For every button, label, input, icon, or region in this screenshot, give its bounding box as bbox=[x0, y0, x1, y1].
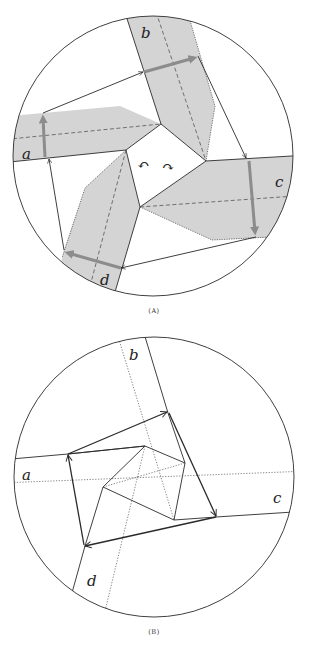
label-b-b: b bbox=[129, 346, 139, 364]
caption-a: (A) bbox=[148, 307, 159, 315]
arrow-d-to-a-b bbox=[68, 455, 84, 545]
label-c-b: c bbox=[273, 489, 282, 507]
arrow-b-to-c-b bbox=[169, 413, 216, 516]
label-a: a bbox=[22, 145, 31, 163]
strip-d-edge-b bbox=[60, 546, 85, 640]
label-b: b bbox=[141, 24, 151, 42]
caption-b: (B) bbox=[148, 628, 159, 636]
black-arrow-a-to-b bbox=[43, 72, 143, 113]
rotate-ccw-icon: ↶ bbox=[137, 156, 150, 174]
inner-edge-1 bbox=[68, 446, 185, 546]
inner-edge-2 bbox=[103, 446, 145, 487]
panel-a: ↶ ↷ a b c d (A) bbox=[0, 0, 309, 315]
panel-a-strips bbox=[0, 0, 309, 309]
arrow-a-to-b-b bbox=[68, 412, 167, 454]
strip-b-edge-b bbox=[140, 320, 168, 413]
label-d-b: d bbox=[87, 572, 97, 590]
black-arrow-d-to-a bbox=[49, 159, 64, 250]
label-d: d bbox=[100, 271, 110, 289]
gray-arrow-a bbox=[43, 118, 45, 157]
arrow-c-to-d-b bbox=[85, 517, 216, 546]
strip-d-shade bbox=[50, 150, 140, 309]
label-a-b: a bbox=[22, 466, 31, 484]
label-c: c bbox=[275, 173, 284, 191]
panel-b: a b c d (B) bbox=[0, 320, 309, 640]
black-arrow-c-to-d bbox=[121, 237, 256, 268]
strip-b-centerline-b bbox=[113, 320, 174, 520]
panel-b-lines bbox=[0, 320, 309, 640]
strip-a-centerline-b bbox=[0, 471, 309, 483]
inner-edge-3 bbox=[168, 413, 185, 463]
rotate-cw-icon: ↷ bbox=[162, 158, 175, 176]
figure-canvas: ↶ ↷ a b c d (A) bbox=[0, 0, 309, 648]
strip-d-centerline-b bbox=[98, 446, 145, 640]
